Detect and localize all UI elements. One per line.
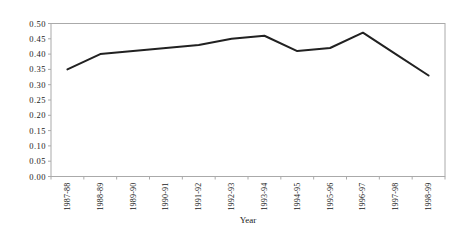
x-tick-label: 1995-96: [326, 183, 335, 211]
x-tick-label: 1989-90: [129, 183, 138, 211]
x-tick-label: 1987-88: [63, 183, 72, 211]
x-tick-label: 1991-92: [194, 183, 203, 211]
y-tick-label: 0.05: [29, 156, 46, 166]
x-tick-label: 1988-89: [96, 183, 105, 211]
x-tick-label: 1997-98: [391, 183, 400, 211]
x-tick-label: 1993-94: [260, 183, 269, 211]
x-tick-label: 1990-91: [161, 183, 170, 211]
x-tick-label: 1994-95: [293, 183, 302, 211]
x-tick-label: 1998-99: [424, 183, 433, 211]
y-tick-label: 0.40: [29, 49, 46, 59]
x-axis-labels: 1987-881988-891989-901990-911991-921992-…: [63, 182, 433, 210]
chart-canvas: 0.000.050.100.150.200.250.300.350.400.45…: [0, 0, 467, 238]
x-tick-label: 1996-97: [358, 183, 367, 211]
x-tick-label: 1992-93: [227, 182, 236, 210]
y-tick-label: 0.35: [29, 64, 46, 74]
line-chart: 0.000.050.100.150.200.250.300.350.400.45…: [0, 0, 467, 238]
y-tick-label: 0.20: [29, 110, 46, 120]
y-tick-label: 0.00: [29, 172, 46, 182]
x-axis-title: Year: [240, 215, 257, 225]
y-tick-label: 0.15: [29, 126, 46, 136]
y-tick-label: 0.50: [29, 19, 46, 29]
y-axis-labels: 0.000.050.100.150.200.250.300.350.400.45…: [29, 19, 46, 182]
data-series-line: [67, 33, 428, 76]
plot-area-frame: [51, 24, 445, 177]
y-tick-label: 0.45: [29, 34, 46, 44]
y-tick-label: 0.10: [29, 141, 46, 151]
y-tick-label: 0.30: [29, 80, 46, 90]
y-tick-label: 0.25: [29, 95, 46, 105]
